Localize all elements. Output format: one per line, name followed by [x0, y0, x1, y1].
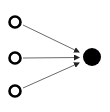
edge-3-arrow: [23, 63, 79, 88]
input-node-1: [10, 17, 21, 28]
input-nodes: [10, 17, 21, 97]
edge-2-arrow: [23, 58, 79, 59]
output-node: [83, 48, 101, 66]
edges: [23, 25, 79, 88]
edge-1-arrow: [23, 25, 79, 52]
input-node-3: [10, 86, 21, 97]
diagram-canvas: [0, 0, 110, 112]
input-node-2: [10, 53, 21, 64]
